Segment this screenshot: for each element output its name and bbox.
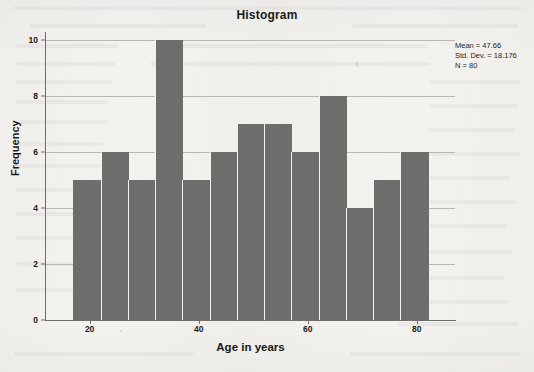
x-axis-line (45, 320, 456, 321)
histogram-bar (101, 152, 129, 320)
statistics-annotation: Mean = 47.66 Std. Dev. = 18.176 N = 80 (455, 41, 517, 71)
y-axis-label: Frequency (9, 120, 21, 176)
histogram-bar (210, 152, 238, 320)
x-tick-label: 60 (288, 324, 328, 334)
histogram-bar (264, 124, 292, 320)
histogram-bar (319, 96, 347, 320)
histogram-bar (237, 124, 265, 320)
histogram-bar (182, 180, 210, 320)
x-tick-mark (199, 320, 200, 324)
histogram-bar (400, 152, 428, 320)
x-tick-mark (308, 320, 309, 324)
x-tick-label: 80 (397, 324, 437, 334)
x-axis-label: Age in years (46, 341, 455, 353)
chart-title: Histogram (0, 8, 534, 22)
histogram-bar (291, 152, 319, 320)
y-tick-label: 0 (2, 315, 38, 325)
x-tick-mark (90, 320, 91, 324)
histogram-bars (46, 40, 455, 320)
x-tick-label: 20 (70, 324, 110, 334)
y-tick-label: 4 (2, 203, 38, 213)
stat-std-dev: Std. Dev. = 18.176 (455, 51, 517, 61)
histogram-bar (346, 208, 374, 320)
histogram-bar (373, 180, 401, 320)
histogram-figure: Histogram 0246810 20406080 Frequency Age… (0, 0, 534, 372)
y-tick-label: 2 (2, 259, 38, 269)
x-tick-mark (417, 320, 418, 324)
y-tick-label: 10 (2, 35, 38, 45)
stat-n: N = 80 (455, 61, 517, 71)
histogram-bar (128, 180, 156, 320)
stat-mean: Mean = 47.66 (455, 41, 517, 51)
histogram-bar (155, 40, 183, 320)
histogram-bar (73, 180, 100, 320)
y-tick-label: 8 (2, 91, 38, 101)
x-tick-label: 40 (179, 324, 219, 334)
